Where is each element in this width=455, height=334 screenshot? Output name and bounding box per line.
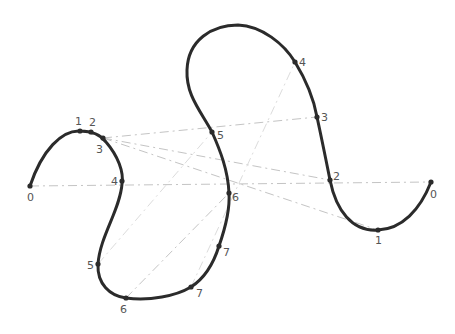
- label-left-2: 2: [89, 116, 96, 129]
- point-right-4: [292, 59, 297, 64]
- point-left-4: [119, 178, 124, 183]
- point-right-5: [209, 129, 214, 134]
- point-right-3: [314, 114, 319, 119]
- point-right-7: [216, 243, 221, 248]
- label-right-2: 2: [333, 170, 340, 183]
- point-right-1: [375, 227, 380, 232]
- label-right-1: 1: [375, 234, 382, 247]
- label-left-0: 0: [27, 191, 34, 204]
- curve-diagram: 0 1 2 3 4 5 6 7 7 6 5 4 3 2 1 0: [0, 0, 455, 334]
- guide-line-7-4: [191, 62, 295, 287]
- guide-line-5-5: [98, 132, 212, 264]
- label-right-6: 6: [232, 191, 239, 204]
- label-left-3: 3: [96, 143, 103, 156]
- point-left-0: [27, 183, 32, 188]
- guide-line-6-6: [126, 193, 229, 298]
- label-right-0: 0: [430, 188, 437, 201]
- point-left-5: [95, 261, 100, 266]
- point-left-1: [77, 128, 82, 133]
- guide-line-0-0: [30, 182, 431, 186]
- label-right-5: 5: [217, 129, 224, 142]
- label-right-3: 3: [321, 111, 328, 124]
- point-labels: 0 1 2 3 4 5 6 7 7 6 5 4 3 2 1 0: [27, 56, 437, 316]
- label-left-5: 5: [87, 259, 94, 272]
- label-right-4: 4: [299, 56, 306, 69]
- s-curve: [30, 25, 431, 299]
- point-left-2: [88, 129, 93, 134]
- label-right-7: 7: [223, 246, 230, 259]
- label-left-7: 7: [196, 287, 203, 300]
- point-left-6: [123, 295, 128, 300]
- label-left-6: 6: [120, 303, 127, 316]
- point-right-0: [428, 179, 433, 184]
- point-left-3: [100, 135, 105, 140]
- point-right-6: [226, 190, 231, 195]
- point-left-7: [188, 284, 193, 289]
- label-left-4: 4: [111, 175, 118, 188]
- point-right-2: [327, 177, 332, 182]
- label-left-1: 1: [75, 115, 82, 128]
- diagram-canvas: 0 1 2 3 4 5 6 7 7 6 5 4 3 2 1 0: [0, 0, 455, 334]
